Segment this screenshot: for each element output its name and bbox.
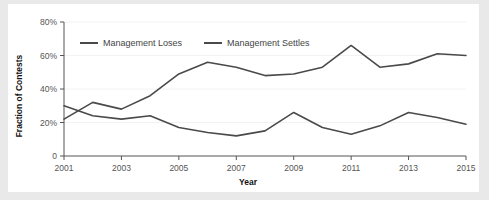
y-axis-title: Fraction of Contests <box>14 54 24 137</box>
chart-figure: 020%40%60%80% 20012003200520072009201120… <box>8 4 479 192</box>
y-tick-label: 0 <box>52 151 57 161</box>
y-tick-label: 80% <box>40 17 57 27</box>
series-line-management-settles <box>64 45 466 119</box>
x-tick-label: 2015 <box>457 163 476 173</box>
x-tick-label: 2013 <box>399 163 418 173</box>
legend-label-1: Management Settles <box>227 38 310 48</box>
y-axis-ticks: 020%40%60%80% <box>40 17 64 161</box>
x-axis-title: Year <box>239 177 258 187</box>
x-tick-label: 2001 <box>55 163 74 173</box>
line-chart: 020%40%60%80% 20012003200520072009201120… <box>8 4 479 192</box>
chart-plot-area: 020%40%60%80% 20012003200520072009201120… <box>8 4 479 192</box>
x-tick-label: 2007 <box>227 163 246 173</box>
y-tick-label: 20% <box>40 118 57 128</box>
x-tick-label: 2009 <box>284 163 303 173</box>
x-tick-label: 2005 <box>169 163 188 173</box>
y-tick-label: 40% <box>40 84 57 94</box>
legend-label-0: Management Loses <box>103 38 183 48</box>
x-axis-ticks: 20012003200520072009201120132015 <box>55 156 476 173</box>
chart-legend: Management LosesManagement Settles <box>80 38 310 48</box>
y-tick-label: 60% <box>40 51 57 61</box>
x-tick-label: 2011 <box>342 163 361 173</box>
series-line-management-loses <box>64 106 466 136</box>
x-tick-label: 2003 <box>112 163 131 173</box>
